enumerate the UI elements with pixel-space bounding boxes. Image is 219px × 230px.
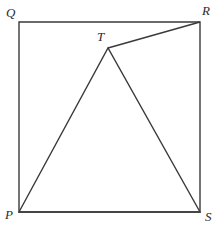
vertex-label-t: T [97, 30, 104, 43]
triangle-pts [19, 48, 200, 212]
vertex-label-s: S [205, 210, 212, 223]
vertex-label-q: Q [6, 6, 15, 19]
segment-t-to-r [108, 22, 200, 48]
vertex-label-r: R [202, 4, 210, 17]
geometry-canvas [0, 0, 219, 230]
vertex-label-p: P [5, 208, 13, 221]
geometry-figure: Q R T P S [0, 0, 219, 230]
